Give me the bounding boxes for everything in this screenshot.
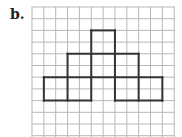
grid-diagram [0, 0, 182, 137]
grid-lines [32, 7, 174, 137]
